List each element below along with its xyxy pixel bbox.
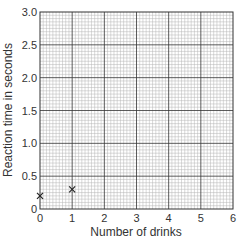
x-tick-label: 0: [37, 212, 43, 224]
reaction-time-chart: 00.51.01.52.02.53.0 0123456 Number of dr…: [0, 0, 243, 244]
x-tick-label: 4: [166, 212, 172, 224]
x-tick-label: 3: [133, 212, 139, 224]
y-tick-label: 0.5: [22, 170, 37, 182]
y-tick-label: 3.0: [22, 6, 37, 18]
y-tick-label: 1.0: [22, 137, 37, 149]
y-axis-title: Reaction time in seconds: [1, 43, 15, 177]
y-tick-label: 1.5: [22, 105, 37, 117]
x-tick-label: 6: [230, 212, 236, 224]
y-axis-tick-labels: 00.51.01.52.02.53.0: [22, 6, 37, 215]
y-tick-label: 2.0: [22, 72, 37, 84]
y-tick-label: 2.5: [22, 39, 37, 51]
x-axis-tick-labels: 0123456: [37, 212, 236, 224]
x-axis-title: Number of drinks: [90, 225, 181, 239]
x-tick-label: 1: [69, 212, 75, 224]
x-tick-label: 5: [198, 212, 204, 224]
x-tick-label: 2: [101, 212, 107, 224]
